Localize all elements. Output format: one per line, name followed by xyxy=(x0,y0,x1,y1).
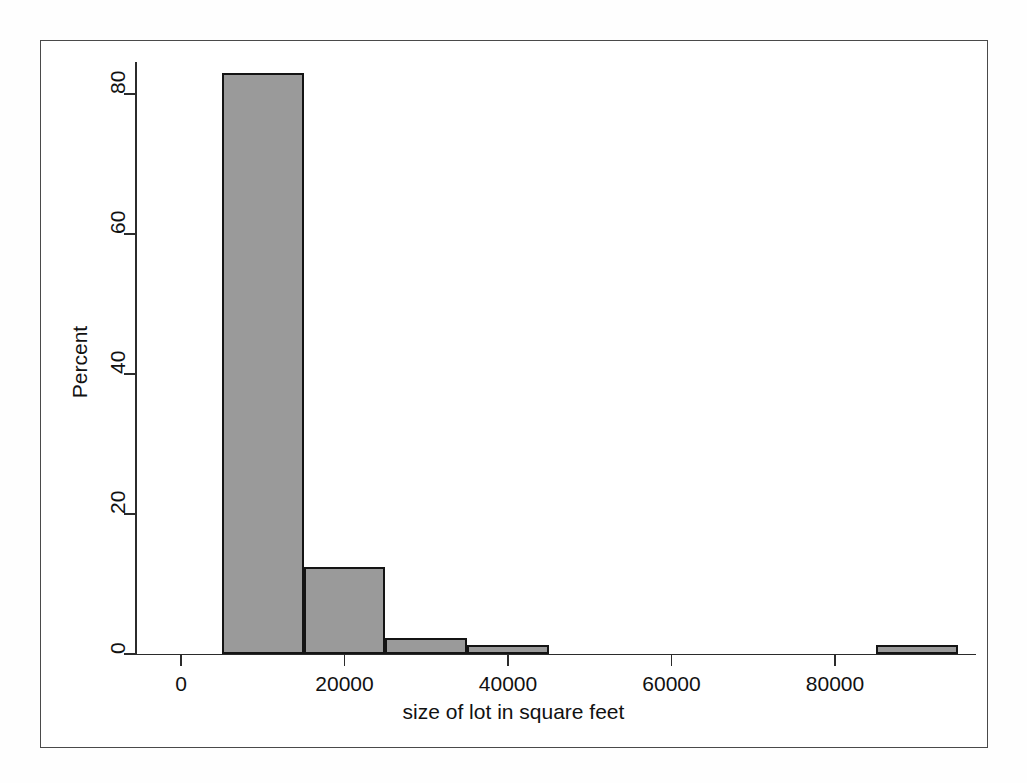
x-axis-tick xyxy=(344,655,346,666)
x-axis-tick-label: 0 xyxy=(101,672,261,696)
x-axis-tick xyxy=(671,655,673,666)
histogram-figure: 020406080 020000400006000080000 Percent … xyxy=(0,0,1027,783)
x-axis-tick-label: 60000 xyxy=(592,672,752,696)
x-axis-tick-label: 80000 xyxy=(755,672,915,696)
y-axis-title: Percent xyxy=(68,312,92,412)
x-axis-tick xyxy=(180,655,182,666)
x-axis-spine xyxy=(135,654,976,656)
y-axis-spine xyxy=(135,62,137,655)
axes-area: 020406080 020000400006000080000 Percent … xyxy=(0,0,1027,783)
x-axis-tick xyxy=(834,655,836,666)
x-axis-tick xyxy=(507,655,509,666)
x-axis-tick-label: 40000 xyxy=(428,672,588,696)
x-axis-title: size of lot in square feet xyxy=(0,700,1027,724)
x-axis-tick-label: 20000 xyxy=(265,672,425,696)
